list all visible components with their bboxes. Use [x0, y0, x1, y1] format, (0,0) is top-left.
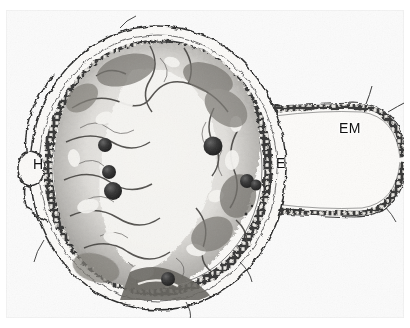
micrograph-image: [0, 0, 410, 328]
label-haustorium: H: [33, 157, 43, 171]
micrograph-figure: H E EM: [0, 0, 410, 328]
label-endosperm: E: [276, 156, 286, 170]
label-embryo: EM: [339, 121, 361, 135]
print-fade: [6, 10, 404, 318]
